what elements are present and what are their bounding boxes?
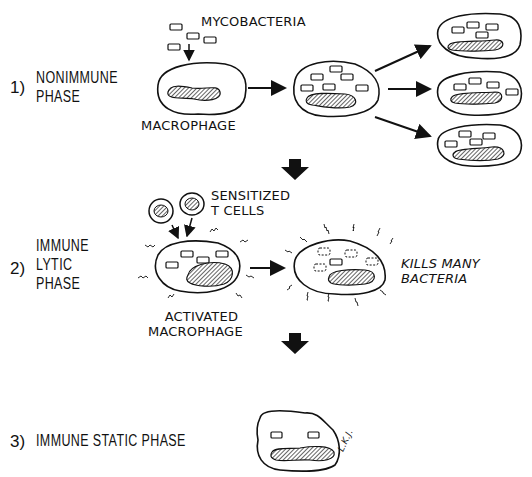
phase-1-title: NONIMMUNE PHASE xyxy=(36,68,118,106)
macrophage-label: MACROPHAGE xyxy=(141,118,236,133)
activated-macrophage xyxy=(138,228,254,298)
activated-macrophage-label: ACTIVATED MACROPHAGE xyxy=(148,309,243,339)
phase-2-title-line3: PHASE xyxy=(36,274,89,293)
phase-2-title-line1: IMMUNE xyxy=(36,236,89,255)
static-macrophage xyxy=(257,411,339,472)
phase-1-title-line1: NONIMMUNE xyxy=(36,68,118,87)
phase-3-number: 3) xyxy=(10,432,25,452)
down-arrow-2 xyxy=(281,333,309,354)
phase-3-title: IMMUNE STATIC PHASE xyxy=(36,431,186,450)
mycobacteria-label: MYCOBACTERIA xyxy=(201,14,306,29)
daughter-cell-3 xyxy=(438,125,522,167)
phase-1-number: 1) xyxy=(10,78,25,98)
infected-macrophage xyxy=(294,61,379,116)
daughter-cell-2 xyxy=(438,72,522,116)
phase-2-title: IMMUNE LYTIC PHASE xyxy=(36,236,89,293)
activated-macrophage-label-line1: ACTIVATED xyxy=(148,309,243,324)
down-arrow-1 xyxy=(281,159,309,180)
daughter-cell-1 xyxy=(438,14,521,59)
phase-2-number: 2) xyxy=(10,259,25,279)
phase-1-title-line2: PHASE xyxy=(36,87,118,106)
t-cells-label-line2: T CELLS xyxy=(211,203,290,218)
t-cells-label-line1: SENSITIZED xyxy=(211,188,290,203)
kills-bacteria-label-line2: BACTERIA xyxy=(401,271,480,286)
t-cells-label: SENSITIZED T CELLS xyxy=(211,188,290,218)
killing-macrophage xyxy=(285,224,393,306)
macrophage-cell xyxy=(158,63,246,115)
phase-2-title-line2: LYTIC xyxy=(36,255,89,274)
kills-bacteria-label-line1: KILLS MANY xyxy=(401,256,480,271)
kills-bacteria-label: KILLS MANY BACTERIA xyxy=(401,256,480,286)
activated-macrophage-label-line2: MACROPHAGE xyxy=(148,324,243,339)
t-cells xyxy=(149,193,204,223)
